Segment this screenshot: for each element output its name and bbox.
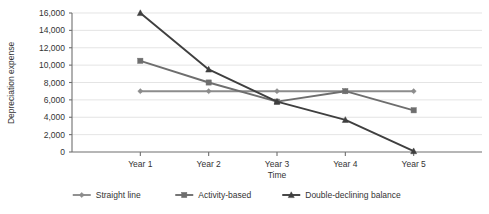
data-point-square: [182, 192, 187, 197]
y-tick-label: 16,000: [39, 8, 65, 18]
x-tick-label: Year 3: [265, 159, 290, 169]
legend-label: Double-declining balance: [305, 190, 401, 200]
series-layer: [137, 10, 416, 154]
x-axis-title: Time: [268, 170, 287, 180]
data-point-diamond: [138, 89, 143, 94]
x-tick-label: Year 2: [197, 159, 222, 169]
y-tick-label: 4,000: [44, 112, 66, 122]
x-axis-tick-labels: Year 1Year 2Year 3Year 4Year 5: [128, 159, 426, 169]
legend-label: Activity-based: [198, 190, 251, 200]
data-point-square: [343, 89, 348, 94]
gridlines: [72, 13, 482, 135]
data-point-diamond: [411, 89, 416, 94]
y-tick-label: 12,000: [39, 43, 65, 53]
series-2: [137, 10, 416, 154]
data-point-diamond: [79, 192, 84, 197]
y-tick-label: 8,000: [44, 78, 66, 88]
x-tick-label: Year 4: [333, 159, 358, 169]
x-tick-label: Year 5: [402, 159, 427, 169]
series-0: [138, 89, 417, 94]
x-axis-tick-marks: [140, 152, 413, 156]
y-tick-label: 10,000: [39, 60, 65, 70]
legend-item-0[interactable]: Straight line: [73, 190, 141, 200]
chart-legend: Straight lineActivity-basedDouble-declin…: [73, 190, 401, 200]
y-tick-label: 6,000: [44, 95, 66, 105]
legend-item-2[interactable]: Double-declining balance: [282, 190, 401, 200]
chart-canvas: 02,0004,0006,0008,00010,00012,00014,0001…: [0, 0, 489, 214]
data-point-square: [206, 80, 211, 85]
y-axis-title: Depreciation expense: [6, 42, 16, 124]
y-tick-label: 0: [60, 147, 65, 157]
y-tick-label: 14,000: [39, 25, 65, 35]
series-1: [138, 58, 417, 113]
data-point-diamond: [206, 89, 211, 94]
legend-label: Straight line: [96, 190, 141, 200]
data-point-square: [411, 108, 416, 113]
legend-item-1[interactable]: Activity-based: [175, 190, 251, 200]
y-axis-tick-labels: 02,0004,0006,0008,00010,00012,00014,0001…: [39, 8, 65, 157]
data-point-diamond: [274, 89, 279, 94]
depreciation-line-chart: 02,0004,0006,0008,00010,00012,00014,0001…: [0, 0, 489, 214]
series-line: [140, 13, 413, 151]
x-tick-label: Year 1: [128, 159, 153, 169]
data-point-square: [138, 58, 143, 63]
y-tick-label: 2,000: [44, 130, 66, 140]
